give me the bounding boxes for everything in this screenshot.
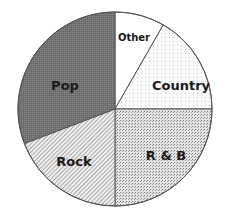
slice-label: Country [152,78,211,93]
slice-label: R & B [146,148,186,163]
pie-chart: OtherCountryR & BRockPop [0,0,225,222]
slice-label: Pop [51,78,79,93]
pie-slices [18,12,212,206]
slice-label: Other [118,32,150,43]
slice-label: Rock [56,154,92,169]
